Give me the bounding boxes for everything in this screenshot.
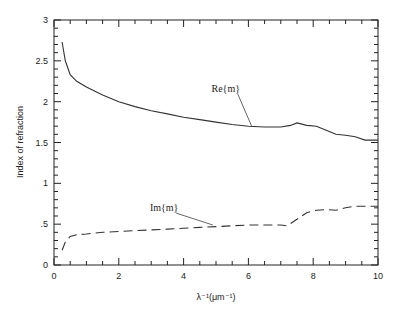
y-tick-label: 2.5 bbox=[35, 56, 48, 66]
x-tick-label: 2 bbox=[116, 271, 121, 281]
series-annotation-label: Re{m} bbox=[211, 83, 240, 94]
series-annotations: Re{m}Im{m} bbox=[150, 83, 252, 225]
x-tick-label: 8 bbox=[311, 271, 316, 281]
imaginary-part-line bbox=[62, 206, 378, 250]
data-series bbox=[62, 42, 378, 250]
y-tick-label: 2 bbox=[43, 97, 48, 107]
y-tick-label: 3 bbox=[43, 15, 48, 25]
annotation-leader-line bbox=[238, 94, 252, 126]
plot-frame bbox=[54, 20, 378, 265]
x-tick-label: 4 bbox=[181, 271, 186, 281]
x-tick-label: 10 bbox=[373, 271, 383, 281]
x-tick-label: 0 bbox=[51, 271, 56, 281]
y-tick-label: 0 bbox=[43, 260, 48, 270]
y-tick-label: .5 bbox=[40, 219, 48, 229]
axis-ticks bbox=[54, 20, 378, 265]
tick-labels: 02468100.511.522.53 bbox=[35, 15, 383, 281]
x-tick-label: 6 bbox=[246, 271, 251, 281]
refraction-index-chart: 02468100.511.522.53 Re{m}Im{m} λ⁻¹(μm⁻¹)… bbox=[0, 0, 398, 326]
annotation-leader-line bbox=[176, 213, 213, 225]
series-annotation-label: Im{m} bbox=[150, 202, 179, 213]
x-axis-title: λ⁻¹(μm⁻¹) bbox=[196, 292, 235, 302]
y-tick-label: 1 bbox=[43, 178, 48, 188]
y-axis-title: Index of refraction bbox=[15, 106, 25, 178]
y-tick-label: 1.5 bbox=[35, 138, 48, 148]
